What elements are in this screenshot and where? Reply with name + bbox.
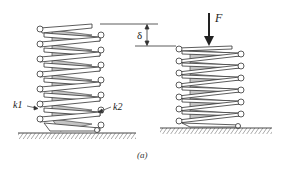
figure-caption: (a) [137, 150, 148, 160]
deflection-label: δ [137, 30, 142, 41]
right-spring [176, 46, 244, 129]
right-outer-spring [178, 46, 240, 127]
figure-drawing [0, 0, 287, 171]
force-label: F [215, 12, 222, 24]
spring-k1-label: k1 [13, 100, 22, 110]
right-ground [160, 128, 272, 134]
left-spring [37, 24, 104, 133]
force-arrow [204, 13, 214, 46]
left-ground [18, 133, 136, 139]
spring-k2-label: k2 [113, 102, 122, 112]
coil-ends-left [37, 26, 43, 122]
spring-deflection-figure: k1 k2 F δ (a) [0, 0, 287, 171]
